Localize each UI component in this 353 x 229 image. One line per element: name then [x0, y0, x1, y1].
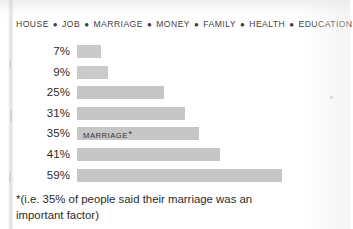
bar-row: 59% — [0, 168, 350, 189]
bar-inline-label: MARRIAGE* — [83, 130, 132, 140]
bar-row: 25% — [0, 85, 350, 106]
bar-row: 9% — [0, 65, 350, 86]
footnote-line-2: important factor) — [16, 209, 99, 221]
bar-value-label: 25% — [16, 86, 70, 98]
category-label: FAMILY — [203, 19, 236, 29]
bullet-separator-icon: ● — [289, 20, 294, 29]
bar-value-label: 7% — [16, 45, 70, 57]
bar-rows: 7%9%25%31%35%MARRIAGE*41%59% — [0, 44, 350, 188]
bar — [77, 66, 108, 79]
category-label: MONEY — [156, 19, 190, 29]
bar-value-label: 59% — [16, 169, 70, 181]
chart-footnote: *(i.e. 35% of people said their marriage… — [16, 192, 316, 223]
footnote-line-1: *(i.e. 35% of people said their marriage… — [16, 193, 252, 205]
bullet-separator-icon: ● — [84, 20, 89, 29]
bar — [77, 45, 101, 58]
bar — [77, 148, 220, 161]
bar-row: 41% — [0, 147, 350, 168]
category-label: HOUSE — [16, 19, 49, 29]
category-label: MARRIAGE — [93, 19, 142, 29]
bar-value-label: 31% — [16, 107, 70, 119]
bar-row: 7% — [0, 44, 350, 65]
bar-row: 35%MARRIAGE* — [0, 126, 350, 147]
bar — [77, 169, 282, 182]
footnote-marker: * — [128, 129, 132, 139]
category-label: JOB — [62, 19, 80, 29]
bar — [77, 107, 185, 120]
bullet-separator-icon: ● — [194, 20, 199, 29]
bar-value-label: 41% — [16, 148, 70, 160]
bar-inline-label-text: MARRIAGE — [83, 131, 128, 140]
category-label: HEALTH — [249, 19, 285, 29]
category-label: EDUCATION — [299, 19, 353, 29]
bar-value-label: 35% — [16, 127, 70, 139]
bar-row: 31% — [0, 106, 350, 127]
bullet-separator-icon: ● — [240, 20, 245, 29]
category-legend-strip: HOUSE●JOB●MARRIAGE●MONEY●FAMILY●HEALTH●E… — [16, 19, 338, 29]
bar — [77, 86, 164, 99]
bar-value-label: 9% — [16, 66, 70, 78]
bullet-separator-icon: ● — [147, 20, 152, 29]
bar: MARRIAGE* — [77, 127, 199, 140]
bullet-separator-icon: ● — [53, 20, 58, 29]
